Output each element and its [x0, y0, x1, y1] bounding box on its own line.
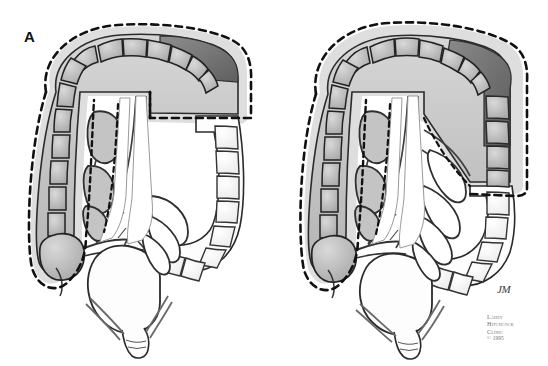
haustra-descending-unshaded-b [465, 192, 509, 282]
credit-block: Lahey Hitchcock Clinic © 1995 [487, 313, 543, 341]
panel-b: B [274, 0, 548, 366]
panel-label-a: A [24, 29, 35, 44]
haustra-descending-shaded-b [486, 96, 509, 187]
panel-a: A [0, 0, 274, 366]
colon-diagram-a [0, 0, 274, 366]
credit-line-copyright: © 1995 [487, 335, 543, 341]
colon-diagram-b [274, 0, 548, 366]
credit-line-clinic: Clinic [487, 328, 543, 335]
credit-line-hitchcock: Hitchcock [487, 320, 543, 327]
sigmoid-rectum-a [88, 246, 160, 358]
credit-line-lahey: Lahey [487, 313, 543, 320]
artist-signature: JM [497, 283, 510, 295]
figure-root: A [0, 0, 548, 366]
